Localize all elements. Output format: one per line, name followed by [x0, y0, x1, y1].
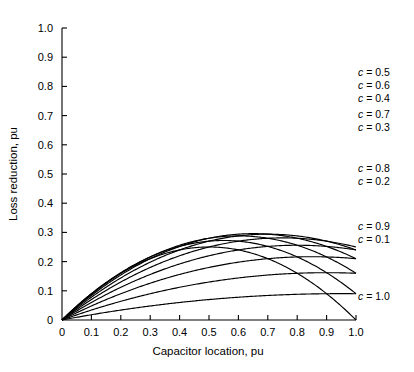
curve-label-0.7: c = 0.7 [358, 108, 390, 120]
x-tick-label: 0.1 [84, 326, 99, 338]
curve-label-0.5: c = 0.5 [358, 66, 390, 78]
curve-series-group [62, 234, 356, 320]
y-tick-label: 0.1 [38, 285, 53, 297]
curve-label-0.8: c = 0.8 [358, 162, 390, 174]
y-tick-label: 1.0 [38, 22, 53, 34]
y-tick-label: 0.8 [38, 80, 53, 92]
x-axis-title: Capacitor location, pu [152, 345, 263, 357]
y-tick-label: 0.6 [38, 139, 53, 151]
curve-c-0.8 [62, 236, 356, 320]
chart-svg: 00.10.20.30.40.50.60.70.80.91.000.10.20.… [0, 0, 414, 372]
y-tick-label: 0.5 [38, 168, 53, 180]
x-tick-label: 0.8 [290, 326, 305, 338]
curve-label-1: c = 1.0 [358, 290, 390, 302]
curve-c-0.9 [62, 241, 356, 321]
x-tick-label: 0.6 [231, 326, 246, 338]
y-tick-label: 0.7 [38, 110, 53, 122]
curve-c-0.3 [62, 257, 356, 320]
axes-group [62, 28, 356, 320]
y-tick-label: 0.3 [38, 226, 53, 238]
x-tick-label: 0.2 [113, 326, 128, 338]
loss-reduction-chart: 00.10.20.30.40.50.60.70.80.91.000.10.20.… [0, 0, 414, 372]
curve-label-0.9: c = 0.9 [358, 220, 390, 232]
y-tick-label: 0.2 [38, 256, 53, 268]
x-tick-label: 1.0 [348, 326, 363, 338]
tick-labels-group: 00.10.20.30.40.50.60.70.80.91.000.10.20.… [38, 22, 364, 338]
curve-label-0.2: c = 0.2 [358, 175, 390, 187]
x-tick-label: 0.9 [319, 326, 334, 338]
curve-annotations-group: c = 0.5c = 0.6c = 0.4c = 0.7c = 0.3c = 0… [358, 66, 390, 302]
y-tick-label: 0 [47, 314, 53, 326]
y-axis-title: Loss reduction, pu [7, 127, 19, 221]
x-tick-label: 0.3 [143, 326, 158, 338]
curve-label-0.1: c = 0.1 [358, 233, 390, 245]
curve-label-0.4: c = 0.4 [358, 92, 390, 104]
curve-label-0.3: c = 0.3 [358, 121, 390, 133]
x-tick-label: 0 [59, 326, 65, 338]
x-tick-label: 0.5 [201, 326, 216, 338]
x-tick-label: 0.4 [172, 326, 187, 338]
curve-label-0.6: c = 0.6 [358, 79, 390, 91]
y-tick-label: 0.4 [38, 197, 53, 209]
y-tick-label: 0.9 [38, 51, 53, 63]
x-tick-label: 0.7 [260, 326, 275, 338]
